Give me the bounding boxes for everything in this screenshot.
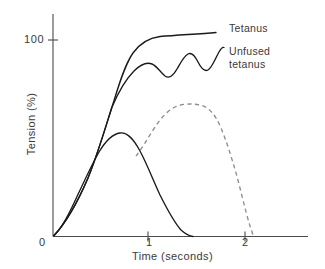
plot-area <box>0 0 325 269</box>
x-tick-label-2: 2 <box>242 236 249 248</box>
y-axis-title: Tension (%) <box>25 79 37 169</box>
curve-unfused-tetanus <box>54 47 224 235</box>
x-axis-title: Time (seconds) <box>132 250 213 262</box>
x-tick-label-0: 0 <box>39 236 46 248</box>
tension-time-figure: 100 0 1 2 Tension (%) Time (seconds) Tet… <box>0 0 325 269</box>
curve-twitch <box>54 133 193 237</box>
series-label-unfused-tetanus: Unfused tetanus <box>229 45 270 70</box>
y-tick-label-100: 100 <box>24 33 44 45</box>
x-tick-label-1: 1 <box>146 236 153 248</box>
curve-tetanus <box>54 33 216 236</box>
curve-summation-dashed <box>136 104 254 236</box>
series-label-tetanus: Tetanus <box>229 22 268 35</box>
